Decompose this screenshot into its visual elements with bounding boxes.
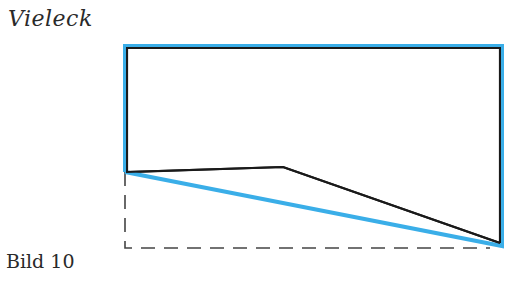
figure-caption: Bild 10 — [6, 250, 75, 272]
polygon-diagram — [0, 0, 507, 281]
polygon-outline — [127, 48, 500, 243]
